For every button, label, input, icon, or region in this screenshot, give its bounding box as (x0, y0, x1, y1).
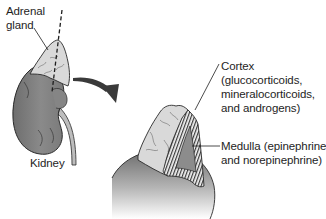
adrenal-section-illustration (112, 64, 220, 219)
kidney-label: Kidney (30, 156, 65, 170)
cortex-leader-line (195, 64, 219, 110)
kidney-illustration (13, 10, 76, 165)
cortex-label: Cortex (glucocorticoids, mineralocortico… (221, 59, 315, 115)
cortex-label-line1: Cortex (221, 59, 315, 73)
magnify-arrow-icon (73, 77, 119, 103)
cortex-label-line3: mineralocorticoids, (221, 87, 315, 101)
medulla-label-line2: and norepinephrine) (221, 153, 326, 167)
adrenal-gland-label-line1: Adrenal (6, 4, 45, 18)
adrenal-gland-label: Adrenal gland (6, 4, 45, 32)
adrenal-gland-label-line2: gland (6, 18, 45, 32)
cortex-label-line2: (glucocorticoids, (221, 73, 315, 87)
kidney-label-text: Kidney (30, 156, 65, 170)
cortex-label-line4: and androgens) (221, 101, 315, 115)
medulla-label-line1: Medulla (epinephrine (221, 139, 326, 153)
medulla-label: Medulla (epinephrine and norepinephrine) (221, 139, 326, 167)
